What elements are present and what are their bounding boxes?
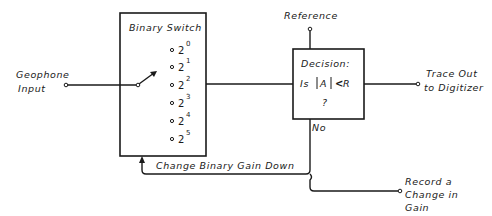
svg-text:5: 5: [186, 129, 191, 137]
feedback-label: Change Binary Gain Down: [156, 160, 295, 171]
svg-text:2: 2: [186, 75, 191, 83]
gain-control-diagram: Binary Switch 2 0 2 1 2 2 2 3 2 4 2 5 Ge…: [0, 0, 492, 216]
switch-pivot: [136, 83, 140, 87]
reference-terminal: [308, 27, 312, 31]
decision-title: Decision:: [301, 58, 350, 69]
svg-text:Is: Is: [300, 78, 309, 89]
svg-text:2: 2: [178, 116, 185, 127]
svg-text:2: 2: [178, 45, 185, 56]
trace-output-label-line2: to Digitizer: [424, 82, 484, 93]
svg-text:2: 2: [178, 134, 185, 145]
decision-question-mark: ?: [322, 97, 328, 108]
geophone-input-terminal: [64, 83, 68, 87]
record-label-line3: Gain: [405, 202, 429, 213]
record-label-line2: Change in: [405, 189, 458, 200]
trace-output-terminal: [416, 82, 420, 86]
no-branch-label: No: [312, 122, 326, 133]
binary-switch-title: Binary Switch: [129, 22, 202, 33]
geophone-input-label-line1: Geophone: [16, 69, 70, 80]
svg-text:3: 3: [186, 93, 191, 101]
feedback-arrow-icon: [139, 156, 145, 163]
record-wire: [310, 174, 398, 191]
svg-text:R: R: [343, 78, 350, 89]
reference-label: Reference: [284, 10, 338, 21]
svg-text:2: 2: [178, 98, 185, 109]
geophone-input-label-line2: Input: [18, 83, 46, 94]
svg-text:2: 2: [178, 80, 185, 91]
svg-text:2: 2: [178, 62, 185, 73]
svg-text:A: A: [319, 78, 327, 89]
svg-text:0: 0: [186, 40, 191, 48]
decision-question: Is A < R: [300, 77, 350, 89]
svg-text:1: 1: [186, 57, 191, 65]
trace-output-label-line1: Trace Out: [426, 68, 478, 79]
record-label-line1: Record a: [405, 176, 452, 187]
svg-text:4: 4: [186, 111, 191, 119]
record-terminal: [398, 189, 402, 193]
